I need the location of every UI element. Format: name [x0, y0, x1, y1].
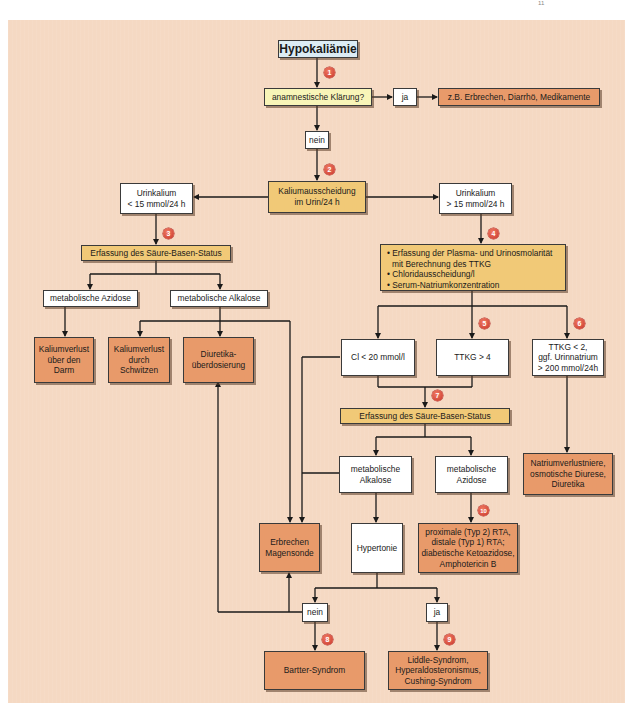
step-acid-base-right: Erfassung des Säure-Basen-Status	[340, 408, 510, 424]
branch-metabolic-alkalosis-left: metabolische Alkalose	[170, 290, 268, 307]
diuretic-overdose-line-2: überdosierung	[192, 360, 246, 371]
sodium-loss-line-1: Natriumverlustniere,	[531, 458, 606, 469]
loss-sweat-line-3: Schwitzen	[120, 365, 158, 376]
step-badge-3: 3	[163, 228, 174, 239]
acidosis-right-line-1: metabolische	[447, 464, 496, 475]
loss-gut-line-1: Kaliumverlust	[39, 344, 89, 355]
answer-no-anamnesis: nein	[305, 131, 329, 149]
loss-gut-line-2: über den	[47, 355, 80, 366]
rta-line-1: proximale (Typ 2) RTA,	[425, 527, 510, 538]
loss-sweat-line-2: durch	[129, 355, 150, 366]
step-badge-9: 9	[444, 634, 455, 645]
branch-urine-potassium-high: Urinkalium > 15 mmol/24 h	[439, 183, 512, 214]
liddle-line-1: Liddle-Syndrom,	[408, 655, 469, 666]
branch-metabolic-acidosis-left: metabolische Azidose	[43, 290, 138, 307]
result-sodium-loss: Natriumverlustniere, osmotische Diurese,…	[523, 453, 613, 495]
urine-k-high-line-1: Urinkalium	[456, 188, 496, 199]
potassium-excretion-line-2: im Urin/24 h	[294, 197, 339, 208]
branch-metabolic-acidosis-right: metabolische Azidose	[435, 456, 508, 493]
ttkg-low-line-3: > 200 mmol/24h	[538, 363, 598, 374]
step-potassium-excretion: Kaliumausscheidung im Urin/24 h	[268, 181, 366, 213]
alkalosis-right-line-2: Alkalose	[360, 475, 392, 486]
loss-sweat-line-1: Kaliumverlust	[114, 344, 164, 355]
answer-yes-hypertension: ja	[426, 603, 448, 622]
step-badge-7: 7	[432, 390, 443, 401]
rta-line-2: distale (Typ 1) RTA;	[431, 537, 504, 548]
sodium-loss-line-2: osmotische Diurese,	[530, 469, 606, 480]
step-badge-8: 8	[322, 634, 333, 645]
branch-chloride-low: Cl < 20 mmol/l	[341, 339, 415, 376]
vomiting-line-1: Erbrechen	[270, 537, 309, 548]
step-badge-10: 10	[478, 505, 489, 516]
branch-ttkg-high: TTKG > 4	[436, 339, 509, 376]
result-rta: proximale (Typ 2) RTA, distale (Typ 1) R…	[418, 523, 518, 573]
branch-urine-potassium-low: Urinkalium < 15 mmol/24 h	[120, 183, 193, 214]
step-badge-2: 2	[324, 164, 335, 175]
diuretic-overdose-line-1: Diuretika-	[201, 349, 237, 360]
branch-ttkg-low: TTKG < 2, ggf. Urinnatrium > 200 mmol/24…	[532, 339, 604, 376]
rta-line-4: Amphotericin B	[440, 559, 497, 570]
urine-k-high-line-2: > 15 mmol/24 h	[447, 199, 505, 210]
workup-item-chloride: • Chloridausscheidung/l	[387, 269, 475, 280]
step-badge-6: 6	[574, 318, 585, 329]
result-potassium-loss-sweat: Kaliumverlust durch Schwitzen	[108, 337, 170, 383]
liddle-line-2: Hyperaldosteronismus,	[395, 665, 481, 676]
vomiting-line-2: Magensonde	[265, 548, 313, 559]
branch-hypertension: Hypertonie	[351, 523, 403, 573]
step-badge-5: 5	[479, 318, 490, 329]
result-vomiting-gastric-tube: Erbrechen Magensonde	[259, 523, 320, 572]
result-anamnesis-causes: z.B. Erbrechen, Diarrhö, Medikamente	[438, 88, 600, 106]
urine-k-low-line-1: Urinkalium	[137, 188, 177, 199]
ttkg-low-line-2: ggf. Urinnatrium	[538, 352, 598, 363]
acidosis-right-line-2: Azidose	[457, 475, 487, 486]
urine-k-low-line-2: < 15 mmol/24 h	[128, 199, 186, 210]
potassium-excretion-line-1: Kaliumausscheidung	[278, 186, 355, 197]
answer-yes-anamnesis: ja	[393, 88, 417, 106]
loss-gut-line-3: Darm	[54, 365, 74, 376]
step-badge-4: 4	[488, 228, 499, 239]
start-node-hypokalemia: Hypokaliämie	[278, 40, 358, 58]
ttkg-low-line-1: TTKG < 2,	[549, 342, 588, 353]
workup-item-sodium: • Serum-Natriumkonzentration	[387, 280, 499, 291]
step-acid-base-left: Erfassung des Säure-Basen-Status	[81, 245, 231, 261]
result-diuretic-overdose: Diuretika- überdosierung	[183, 337, 254, 383]
workup-item-osmolarity: • Erfassung der Plasma- und Urinosmolari…	[387, 248, 552, 259]
branch-metabolic-alkalosis-right: metabolische Alkalose	[339, 456, 412, 493]
sodium-loss-line-3: Diuretika	[551, 479, 584, 490]
result-liddle-hyperaldo-cushing: Liddle-Syndrom, Hyperaldosteronismus, Cu…	[388, 651, 488, 690]
workup-item-ttkg: mit Berechnung des TTKG	[387, 259, 491, 270]
step-plasma-urine-workup: • Erfassung der Plasma- und Urinosmolari…	[380, 244, 566, 291]
liddle-line-3: Cushing-Syndrom	[404, 676, 471, 687]
rta-line-3: diabetische Ketoazidose,	[421, 548, 514, 559]
answer-no-hypertension: nein	[302, 603, 328, 622]
question-anamnesis: anamnestische Klärung?	[264, 88, 372, 106]
step-badge-1: 1	[324, 67, 335, 78]
result-potassium-loss-gut: Kaliumverlust über den Darm	[34, 337, 94, 383]
result-bartter-syndrome: Bartter-Syndrom	[264, 651, 365, 690]
alkalosis-right-line-1: metabolische	[351, 464, 400, 475]
